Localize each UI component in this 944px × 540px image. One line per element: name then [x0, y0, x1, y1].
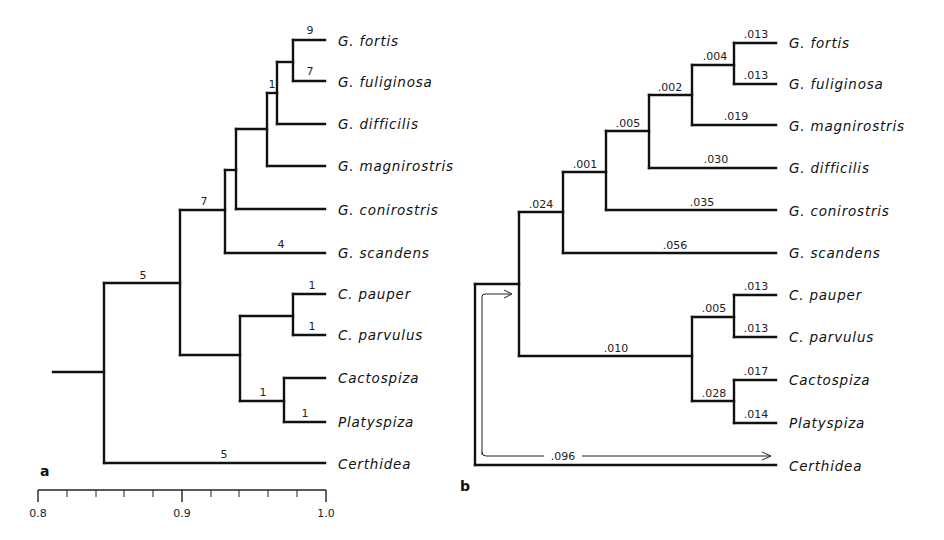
branch-length: .035: [690, 196, 715, 209]
branch-length: .005: [702, 302, 727, 315]
taxon-label: G. fuliginosa: [338, 74, 433, 90]
branch-length: .019: [724, 110, 749, 123]
branch-length: .028: [702, 387, 727, 400]
branch-label: 1: [309, 279, 316, 292]
branch-label: 4: [278, 238, 285, 251]
taxon-label: Platyspiza: [789, 415, 865, 431]
branch-length: .010: [604, 342, 629, 355]
taxon-label: Cactospiza: [338, 370, 419, 386]
branch-label: 5: [140, 269, 147, 282]
taxon-label: G. fuliginosa: [789, 76, 884, 92]
taxon-label: Platyspiza: [338, 414, 414, 430]
branch-label: 7: [201, 195, 208, 208]
branch-length: .001: [573, 158, 598, 171]
branch-label: 1: [269, 78, 276, 91]
branch-label: 1: [260, 386, 267, 399]
axis-tick-label: 0.8: [29, 507, 47, 520]
taxon-label: G. conirostris: [789, 203, 890, 219]
taxon-label: G. fortis: [789, 35, 850, 51]
branch-length: .002: [658, 81, 683, 94]
phylogeny-figure: 9 7 1 7 4 5 1 1 1 1 5 G. fortis G. fulig…: [0, 0, 944, 540]
taxon-label: G. difficilis: [338, 116, 419, 132]
branch-length: .013: [744, 322, 769, 335]
branch-length-certhidea: .096: [551, 450, 576, 463]
taxon-label: G. fortis: [338, 33, 399, 49]
taxon-label: C. pauper: [789, 287, 863, 303]
taxon-label: C. pauper: [338, 286, 412, 302]
axis-tick-label: 0.9: [173, 507, 191, 520]
tree-a: 9 7 1 7 4 5 1 1 1 1 5 G. fortis G. fulig…: [29, 24, 454, 520]
taxon-label: Cactospiza: [789, 372, 870, 388]
taxon-label: C. parvulus: [789, 329, 874, 345]
tree-b: .096 .013 .013 .004 .002 .019 .005 .030 …: [460, 28, 905, 494]
axis-tick-label: 1.0: [317, 507, 335, 520]
taxon-label: G. scandens: [338, 245, 430, 261]
taxon-label: G. conirostris: [338, 202, 439, 218]
taxon-label: C. parvulus: [338, 327, 423, 343]
branch-label: 9: [307, 24, 314, 37]
panel-label-b: b: [460, 478, 470, 494]
taxon-label: Certhidea: [789, 458, 862, 474]
taxon-label: G. difficilis: [789, 160, 870, 176]
branch-label: 1: [309, 320, 316, 333]
branch-length: .004: [703, 50, 728, 63]
branch-length: .017: [744, 365, 769, 378]
taxon-label: G. magnirostris: [789, 118, 905, 134]
branch-length: .013: [744, 28, 769, 41]
panel-label-a: a: [40, 463, 49, 479]
branch-label: 1: [302, 407, 309, 420]
taxon-label: Certhidea: [338, 456, 411, 472]
branch-length: .005: [616, 117, 641, 130]
taxon-label: G. scandens: [789, 245, 881, 261]
branch-label: 7: [307, 65, 314, 78]
branch-length: .024: [529, 198, 554, 211]
branch-length: .013: [744, 69, 769, 82]
branch-length: .014: [744, 408, 769, 421]
similarity-axis: 0.8 0.9 1.0: [29, 490, 335, 520]
branch-label: 5: [221, 448, 228, 461]
branch-length: .030: [704, 153, 729, 166]
taxon-label: G. magnirostris: [338, 158, 454, 174]
branch-length: .056: [663, 239, 688, 252]
branch-length: .013: [744, 280, 769, 293]
